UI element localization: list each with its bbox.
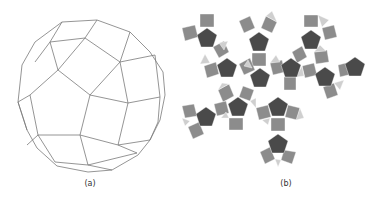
- panel-b-net: (b): [170, 0, 383, 204]
- caption-b: (b): [266, 179, 306, 188]
- polyhedron-net: [170, 0, 383, 204]
- polyhedron-wireframe: [0, 0, 185, 204]
- caption-a: (a): [70, 179, 110, 188]
- panel-a-wireframe: (a): [0, 0, 185, 204]
